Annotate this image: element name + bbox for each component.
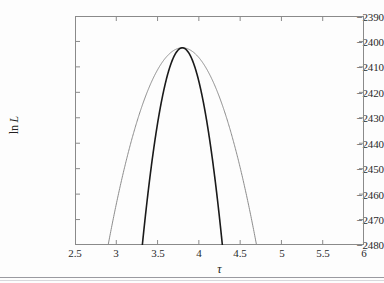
y-axis-title-prefix: ln: [7, 125, 21, 134]
figure-canvas: −2390 −2400 −2410 −2420 −2430 −2440 −245…: [0, 0, 384, 283]
x-tick-label: 3.5: [138, 248, 178, 259]
x-tick-label: 6: [344, 248, 384, 259]
page-divider-rule-secondary: [0, 280, 384, 281]
x-tick-label: 4.5: [220, 248, 260, 259]
x-tick-label: 5.5: [303, 248, 343, 259]
x-tick-label: 5: [262, 248, 302, 259]
x-tick-label: 4: [179, 248, 219, 259]
x-tick-label: 3: [96, 248, 136, 259]
x-tick-label: 2.5: [55, 248, 95, 259]
plot-area: [75, 16, 364, 245]
data-curve-narrow-profile: [142, 48, 222, 245]
data-curve-wide-profile: [108, 48, 256, 245]
page-divider-rule: [0, 277, 384, 278]
y-axis-title-symbol: L: [7, 116, 21, 123]
x-axis-title: τ: [75, 263, 364, 275]
y-axis-title: ln L: [8, 90, 20, 160]
